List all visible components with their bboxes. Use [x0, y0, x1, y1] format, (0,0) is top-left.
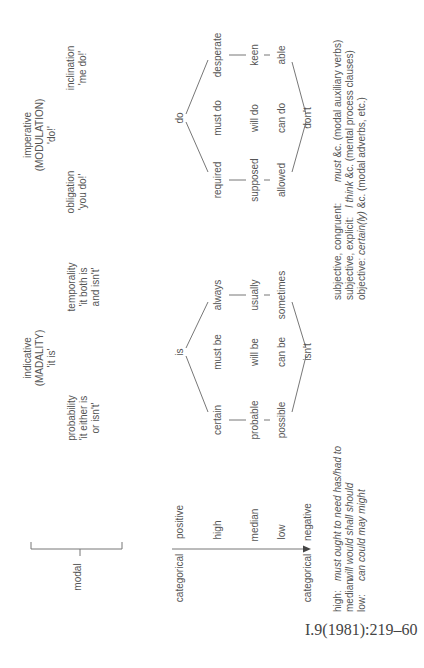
- positive-label: positive: [174, 505, 186, 539]
- modulation-cell: can do: [276, 103, 288, 133]
- key-subjective-explicit: subjective, explicit:I think &c. (mental…: [344, 40, 356, 300]
- obligation-header: obligation 'you do!': [65, 171, 89, 214]
- modulation-cell: required: [212, 162, 224, 199]
- citation: I.9(1981):219–60: [305, 621, 417, 639]
- high-label: high: [212, 521, 224, 540]
- modulation-positive: do: [174, 112, 186, 123]
- key-row-low: low:can could may might: [356, 446, 368, 612]
- modality-cell: probable: [249, 401, 261, 440]
- indicative-header: indicative (MADALITY) 'it is': [22, 330, 58, 387]
- modality-cell: possible: [276, 402, 288, 439]
- categorical-negative-label: categorical: [302, 554, 314, 602]
- modal-bracket: [31, 542, 122, 549]
- categorical-positive-label: categorical: [174, 554, 186, 602]
- modulation-cell: able: [276, 46, 288, 65]
- modality-cell: usually: [249, 279, 261, 310]
- modulation-negative: don't: [302, 107, 314, 128]
- modality-cell: can be: [276, 337, 288, 367]
- modulation-cell: desperate: [212, 33, 224, 77]
- key-objective: objective: certain(ly) &c. (modal adverb…: [356, 40, 368, 300]
- key-row-median: median:will would shall should: [344, 446, 356, 612]
- modality-diagram: indicative (MADALITY) 'it is' imperative…: [0, 0, 424, 668]
- median-label: median: [249, 509, 261, 542]
- key-orientation: subjective, congruent:must &c. (modal au…: [332, 40, 368, 300]
- modulation-cell: will do: [249, 104, 261, 132]
- modality-cell: always: [212, 280, 224, 311]
- key-subjective-congruent: subjective, congruent:must &c. (modal au…: [332, 40, 344, 300]
- modality-positive: is: [174, 348, 186, 355]
- modulation-cell: keen: [249, 44, 261, 66]
- imperative-header: imperative (MODULATION) 'do!': [22, 99, 58, 172]
- modality-cell: certain: [212, 405, 224, 435]
- arrowhead-icon: [303, 546, 311, 553]
- modality-cell: must be: [212, 334, 224, 370]
- low-label: low: [276, 524, 288, 539]
- modality-negative: isn't: [302, 343, 314, 360]
- modulation-cell: must do: [212, 100, 224, 136]
- modality-cell: will be: [249, 338, 261, 366]
- probability-header: probability 'it either is or isn't': [66, 395, 102, 441]
- temporality-header: temporality 'it both is and isn't': [66, 263, 102, 312]
- key-values: high:must ought to need has/had to media…: [332, 446, 368, 612]
- key-row-high: high:must ought to need has/had to: [332, 446, 344, 612]
- negative-label: negative: [302, 503, 314, 541]
- modulation-cell: allowed: [276, 163, 288, 197]
- inclination-header: inclination 'me do!': [65, 46, 89, 90]
- modal-label: modal: [72, 563, 84, 590]
- modulation-cell: supposed: [249, 158, 261, 201]
- modality-cell: sometimes: [276, 271, 288, 319]
